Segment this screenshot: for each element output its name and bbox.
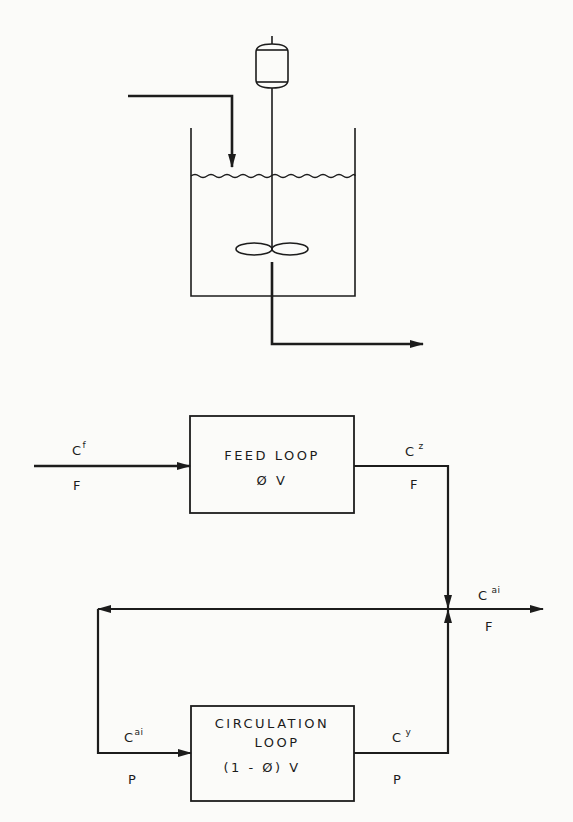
circ-out-flow-label: P	[393, 772, 402, 787]
circulation-loop-title-1: CIRCULATION	[215, 716, 330, 731]
reactor-loop-diagram: Cf F FEED LOOP Ø V Cz F Cai F CIRCULATIO…	[0, 0, 573, 822]
feed-loop-title: FEED LOOP	[224, 448, 320, 463]
circ-in-conc-label: Cai	[124, 727, 144, 745]
product-out-conc-label: Cai	[478, 585, 501, 603]
liquid-surface	[191, 175, 355, 178]
circ-in-flow-label: P	[128, 772, 137, 787]
feed-inlet-line	[128, 96, 232, 167]
feed-out-conc-label: Cz	[405, 441, 424, 459]
circulation-loop-title-2: LOOP	[254, 735, 299, 750]
circ-out-conc-label: Cy	[392, 727, 412, 745]
motor-icon	[256, 36, 288, 88]
circulation-loop-volume: (1 - Ø) V	[223, 760, 300, 775]
circ-stream-in	[98, 609, 191, 753]
outlet-line	[272, 262, 423, 344]
feed-loop-volume: Ø V	[257, 473, 288, 488]
product-out-flow-label: F	[485, 619, 494, 634]
feed-stream-out	[354, 466, 448, 608]
feed-out-flow-label: F	[410, 477, 419, 492]
feed-in-flow-label: F	[73, 478, 82, 493]
stirred-tank	[128, 36, 423, 344]
feed-loop-box	[190, 416, 354, 513]
feed-in-conc-label: Cf	[72, 440, 87, 458]
